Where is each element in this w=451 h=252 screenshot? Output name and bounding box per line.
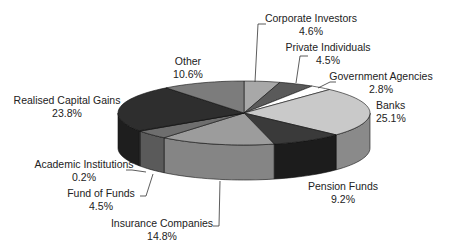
label-other: Other10.6% bbox=[173, 55, 203, 80]
label-value-fund-of-funds: 4.5% bbox=[89, 200, 113, 212]
label-pension-funds: Pension Funds9.2% bbox=[308, 180, 378, 205]
label-value-other: 10.6% bbox=[173, 68, 203, 80]
slice-side-fund-of-funds bbox=[140, 131, 164, 173]
label-academic-institutions: Academic Institutions0.2% bbox=[34, 158, 133, 183]
label-value-academic-institutions: 0.2% bbox=[72, 171, 96, 183]
leader-line-corporate-investors bbox=[255, 24, 266, 82]
label-banks: Banks25.1% bbox=[376, 99, 406, 124]
leader-line-insurance-companies bbox=[213, 181, 220, 226]
label-insurance-companies: Insurance Companies14.8% bbox=[111, 217, 213, 242]
leader-line-fund-of-funds bbox=[140, 174, 153, 196]
label-private-individuals: Private Individuals4.5% bbox=[285, 41, 370, 66]
leader-line-academic-institutions bbox=[126, 170, 146, 172]
label-value-private-individuals: 4.5% bbox=[316, 54, 340, 66]
pie-chart: Corporate Investors4.6%Private Individua… bbox=[0, 0, 451, 252]
pie-top-faces bbox=[118, 81, 370, 145]
label-realised-capital-gains: Realised Capital Gains23.8% bbox=[14, 94, 121, 119]
label-value-insurance-companies: 14.8% bbox=[147, 230, 177, 242]
leader-line-government-agencies bbox=[318, 82, 336, 88]
label-value-corporate-investors: 4.6% bbox=[299, 25, 323, 37]
label-value-realised-capital-gains: 23.8% bbox=[52, 107, 82, 119]
leader-line-private-individuals bbox=[296, 56, 308, 83]
label-fund-of-funds: Fund of Funds4.5% bbox=[67, 187, 135, 212]
label-government-agencies: Government Agencies2.8% bbox=[329, 70, 432, 95]
label-value-pension-funds: 9.2% bbox=[331, 193, 355, 205]
label-corporate-investors: Corporate Investors4.6% bbox=[265, 12, 357, 37]
label-value-banks: 25.1% bbox=[376, 112, 406, 124]
label-value-government-agencies: 2.8% bbox=[369, 83, 393, 95]
